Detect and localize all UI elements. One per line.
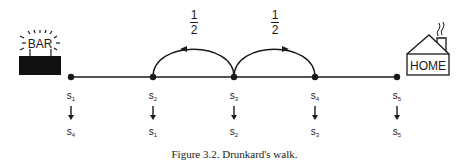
fraction-denominator: 2	[271, 24, 279, 36]
arc-left	[153, 49, 234, 77]
node-s2	[150, 74, 156, 80]
bar-label: BAR	[28, 37, 53, 51]
state-label: s3	[230, 90, 238, 102]
node-s4	[312, 74, 318, 80]
mapped-state-label: s4	[67, 126, 75, 138]
down-arrow-icon	[394, 106, 400, 120]
state-label: s1	[67, 90, 75, 102]
down-arrow-icon	[231, 106, 237, 120]
fraction-numerator: 1	[190, 9, 198, 21]
figure-caption: Figure 3.2. Drunkard's walk.	[0, 148, 469, 160]
down-arrow-icon	[312, 106, 318, 120]
state-label: s4	[311, 90, 319, 102]
fraction-numerator: 1	[271, 9, 279, 21]
fraction-denominator: 2	[190, 24, 198, 36]
probability-right: 1 2	[271, 9, 279, 36]
mapped-state-label: s2	[230, 126, 238, 138]
state-label: s2	[149, 90, 157, 102]
node-s3	[231, 74, 237, 80]
mapped-state-label: s5	[393, 126, 401, 138]
arc-right	[234, 49, 315, 77]
probability-left: 1 2	[190, 9, 198, 36]
mapped-state-label: s1	[149, 126, 157, 138]
down-arrow-icon	[68, 106, 74, 120]
node-s1	[68, 74, 74, 80]
arrowhead-left-icon	[180, 46, 187, 52]
drunkards-walk-diagram	[0, 0, 469, 167]
state-label: s5	[393, 90, 401, 102]
home-label: HOME	[410, 59, 446, 73]
down-arrow-icon	[150, 106, 156, 120]
node-s5	[394, 74, 400, 80]
mapped-state-label: s3	[311, 126, 319, 138]
